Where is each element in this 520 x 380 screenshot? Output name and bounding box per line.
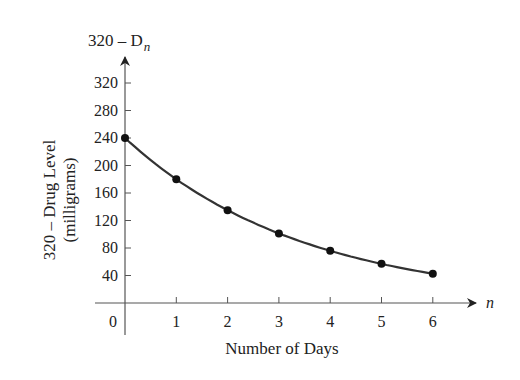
x-axis-name: n — [486, 294, 494, 311]
y-tick-label: 40 — [102, 267, 118, 284]
data-point — [275, 229, 283, 237]
y-tick-label: 120 — [94, 212, 118, 229]
y-tick-label: 200 — [94, 157, 118, 174]
decay-curve — [125, 138, 433, 274]
data-points — [121, 134, 437, 278]
y-tick-label: 80 — [102, 239, 118, 256]
y-axis-label: 320 – Drug Level (milligrams) — [40, 140, 79, 261]
data-point — [224, 206, 232, 214]
y-tick-label: 320 — [94, 74, 118, 91]
x-tick-label: 4 — [326, 313, 334, 330]
y-tick-label: 160 — [94, 184, 118, 201]
data-point — [429, 270, 437, 278]
y-axis-label-line1: 320 – Drug Level — [40, 140, 59, 261]
data-point — [172, 175, 180, 183]
x-axis-label: Number of Days — [225, 339, 338, 358]
y-axis-label-line2: (milligrams) — [60, 158, 79, 243]
decay-chart: 320 – Dn 320 – Drug Level (milligrams) n… — [0, 0, 520, 380]
data-point — [121, 134, 129, 142]
x-tick-label: 2 — [224, 313, 232, 330]
x-ticks: 0123456 — [109, 297, 437, 330]
x-tick-label: 1 — [172, 313, 180, 330]
y-axis-name: 320 – Dn — [88, 31, 150, 54]
x-tick-label: 3 — [275, 313, 283, 330]
x-tick-label: 5 — [378, 313, 386, 330]
y-tick-label: 280 — [94, 102, 118, 119]
data-point — [326, 247, 334, 255]
y-tick-label: 240 — [94, 129, 118, 146]
data-point — [378, 260, 386, 268]
x-tick-label: 6 — [429, 313, 437, 330]
x-tick-label: 0 — [109, 313, 117, 330]
